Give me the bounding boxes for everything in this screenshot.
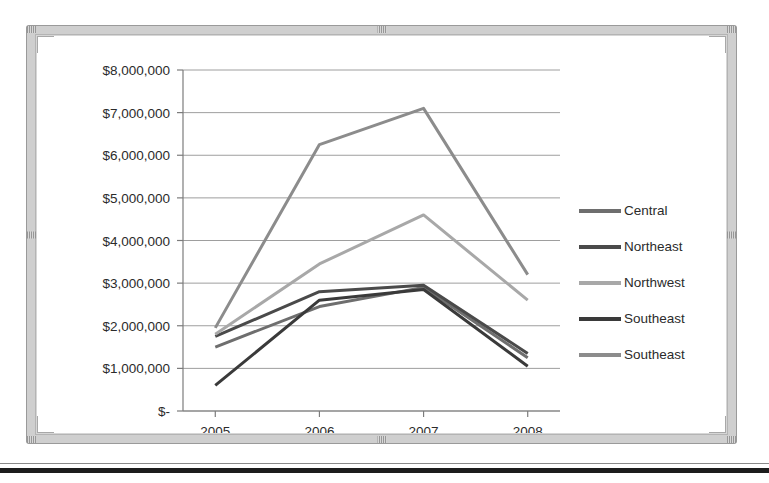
chart-plot-container[interactable]: $8,000,000$7,000,000$6,000,000$5,000,000… (36, 35, 727, 434)
selection-handle-middle-left[interactable] (27, 231, 36, 238)
chart-legend[interactable]: CentralNortheastNorthwestSoutheastSouthe… (579, 203, 685, 362)
y-tick-label: $6,000,000 (102, 148, 170, 163)
page-bottom-rule (0, 468, 769, 473)
legend-label-4[interactable]: Southeast (624, 347, 685, 362)
screenshot-root: $8,000,000$7,000,000$6,000,000$5,000,000… (0, 0, 769, 483)
x-tick-label: 2006 (304, 424, 334, 434)
legend-label-0[interactable]: Central (624, 203, 668, 218)
selection-handle-bottom-left[interactable] (27, 436, 36, 443)
y-tick-label: $1,000,000 (102, 361, 170, 376)
x-tick-label: 2005 (200, 424, 230, 434)
legend-label-1[interactable]: Northeast (624, 239, 683, 254)
x-tick-label: 2008 (513, 424, 543, 434)
x-axis-labels: 2005200620072008 (200, 424, 542, 434)
x-axis (183, 411, 560, 417)
chart-svg[interactable]: $8,000,000$7,000,000$6,000,000$5,000,000… (37, 36, 727, 434)
y-tick-label: $4,000,000 (102, 234, 170, 249)
selection-handle-bottom-center[interactable] (377, 436, 386, 443)
y-axis-labels: $8,000,000$7,000,000$6,000,000$5,000,000… (102, 63, 170, 419)
y-tick-label: $- (158, 404, 170, 419)
y-tick-label: $3,000,000 (102, 276, 170, 291)
page-rule-thin (0, 463, 769, 464)
selection-handle-top-right[interactable] (727, 26, 736, 33)
legend-label-2[interactable]: Northwest (624, 275, 685, 290)
x-tick-label: 2007 (409, 424, 439, 434)
selection-handle-bottom-right[interactable] (727, 436, 736, 443)
chart-object-frame[interactable]: $8,000,000$7,000,000$6,000,000$5,000,000… (27, 26, 736, 443)
selection-handle-top-center[interactable] (377, 26, 386, 33)
line-chart[interactable]: $8,000,000$7,000,000$6,000,000$5,000,000… (37, 36, 726, 433)
selection-handle-top-left[interactable] (27, 26, 36, 33)
y-tick-label: $2,000,000 (102, 319, 170, 334)
y-tick-label: $5,000,000 (102, 191, 170, 206)
series-lines-group[interactable] (215, 108, 527, 385)
y-tick-label: $8,000,000 (102, 63, 170, 78)
y-axis-tickmarks (177, 70, 183, 411)
selection-handle-middle-right[interactable] (727, 231, 736, 238)
y-tick-label: $7,000,000 (102, 106, 170, 121)
legend-label-3[interactable]: Southeast (624, 311, 685, 326)
